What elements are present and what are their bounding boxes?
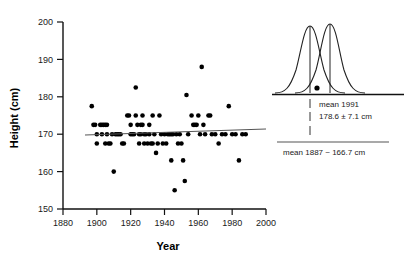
x-tick-label: 1960 (188, 218, 208, 228)
scatter-point (133, 85, 138, 90)
scatter-point (150, 141, 155, 146)
scatter-point (198, 132, 203, 137)
scatter-point (199, 65, 204, 70)
scatter-point (133, 113, 138, 118)
scatter-point (155, 141, 160, 146)
mean-1991-label-line2: 178.6 ± 7.1 cm (319, 112, 372, 121)
scatter-point (95, 141, 100, 146)
y-tick-label: 160 (38, 167, 53, 177)
figure-svg: 150160170180190200 188019001920194019601… (0, 0, 410, 264)
scatter-point (183, 179, 188, 184)
scatter-point (226, 104, 231, 109)
scatter-point (184, 93, 189, 98)
scatter-point (93, 123, 98, 128)
scatter-point (140, 113, 145, 118)
y-tick-label: 190 (38, 55, 53, 65)
scatter-point (172, 188, 177, 193)
mean-1991-label-line1: mean 1991 (319, 100, 360, 109)
scatter-point (164, 141, 169, 146)
scatter-point (128, 123, 133, 128)
y-axis-tick-labels: 150160170180190200 (38, 17, 53, 214)
scatter-point (137, 141, 142, 146)
reference-dot-icon (314, 85, 319, 90)
scatter-point (201, 123, 206, 128)
y-tick-label: 150 (38, 204, 53, 214)
scatter-point (189, 113, 194, 118)
x-tick-label: 1940 (154, 218, 174, 228)
scatter-point (186, 132, 191, 137)
x-axis-tick-labels: 1880190019201940196019802000 (53, 218, 276, 228)
figure-container: 150160170180190200 188019001920194019601… (0, 0, 410, 264)
scatter-point (105, 123, 110, 128)
x-tick-label: 1920 (121, 218, 141, 228)
mean-1887-label: mean 1887 ~ 166.7 cm (283, 148, 365, 157)
y-axis-ticks (57, 22, 63, 209)
x-axis-title: Year (156, 240, 180, 252)
axis-lines (63, 22, 266, 209)
scatter-point (243, 132, 248, 137)
scatter-point (233, 132, 238, 137)
scatter-point (140, 123, 145, 128)
scatter-point (108, 141, 113, 146)
y-axis-title: Height (cm) (8, 87, 20, 148)
y-tick-label: 180 (38, 92, 53, 102)
y-tick-label: 200 (38, 17, 53, 27)
x-axis-ticks (63, 209, 266, 215)
scatter-point (154, 151, 159, 156)
scatter-point (216, 141, 221, 146)
scatter-point (194, 123, 199, 128)
scatter-point (203, 132, 208, 137)
scatter-point (181, 158, 186, 163)
scatter-point (208, 113, 213, 118)
scatter-point (237, 158, 242, 163)
scatter-point (111, 169, 116, 174)
scatter-panel: 150160170180190200 188019001920194019601… (8, 17, 276, 252)
scatter-point (213, 132, 218, 137)
y-tick-label: 170 (38, 129, 53, 139)
scatter-points (89, 65, 248, 193)
scatter-point (122, 141, 127, 146)
scatter-point (127, 113, 132, 118)
x-tick-label: 1980 (222, 218, 242, 228)
scatter-point (157, 113, 162, 118)
scatter-point (150, 113, 155, 118)
scatter-point (132, 132, 137, 137)
x-tick-label: 2000 (256, 218, 276, 228)
x-tick-label: 1880 (53, 218, 73, 228)
scatter-point (89, 104, 94, 109)
scatter-point (177, 132, 182, 137)
scatter-point (223, 132, 228, 137)
scatter-point (179, 141, 184, 146)
scatter-point (147, 123, 152, 128)
distribution-panel: mean 1991 178.6 ± 7.1 cm mean 1887 ~ 166… (272, 24, 404, 157)
scatter-point (169, 158, 174, 163)
scatter-point (196, 113, 201, 118)
x-tick-label: 1900 (87, 218, 107, 228)
